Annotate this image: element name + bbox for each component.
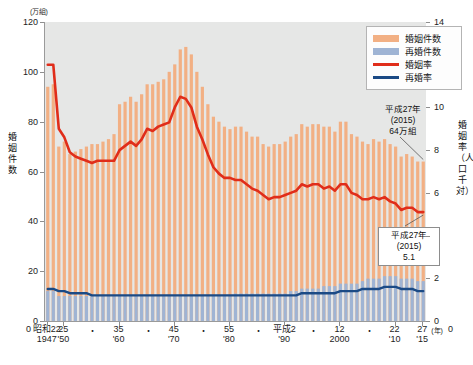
right-tickmark-10 [426,107,430,108]
legend-item-3[interactable]: 再婚率 [373,71,455,84]
x-axis-tick-2000: 122000 [317,324,361,344]
x-axis: 0 0 昭和22194725'50・35'60・45'70・55'80・平成2'… [0,324,473,365]
left-axis-tick-120: 120 [4,17,38,27]
left-tickmark-20 [40,271,44,272]
left-tickmark-0 [40,321,44,322]
x-axis-tick-1950: 25'50 [41,324,85,344]
legend-line-marriage-rate [373,63,399,66]
x-tickmark-2000 [339,322,340,326]
left-axis-unit: (万組) [30,6,47,16]
x-axis-tick-1970: 45'70 [152,324,196,344]
right-tickmark-0 [426,321,430,322]
right-axis-tick-8: 8 [434,145,456,155]
legend-line-remarriage-rate [373,76,399,79]
annotation-count-line-1: (2015) [375,115,431,126]
marriage-statistics-chart: (万組) 020406080100120 02468101214 婚姻件数 婚姻… [0,0,473,365]
right-tickmark-6 [426,193,430,194]
x-axis-unit: (年) [431,325,443,335]
x-tick-year-2000: 2000 [317,334,361,344]
left-tickmark-40 [40,221,44,222]
legend-swatch-remarriage-count [373,48,399,55]
annotation-count-line-0: 平成27年 [375,104,431,115]
right-tickmark-12 [426,65,430,66]
left-tickmark-60 [40,172,44,173]
legend-label-remarriage-rate: 再婚率 [405,71,432,84]
x-tickmark-2015 [422,322,423,326]
legend-item-1[interactable]: 再婚件数 [373,45,455,58]
right-tickmark-4 [426,236,430,237]
right-axis-tick-6: 6 [434,188,456,198]
annotation-marriage-rate-2015: 平成27年 (2015) 5.1 [378,227,440,266]
right-tickmark-14 [426,22,430,23]
legend-label-marriage-count: 婚姻件数 [405,32,441,45]
x-axis-zero-right: 0 [448,324,453,334]
legend-swatch-marriage-count [373,35,399,42]
x-tickmark-2010 [395,322,396,326]
legend-item-0[interactable]: 婚姻件数 [373,32,455,45]
left-axis-tick-80: 80 [4,117,38,127]
legend: 婚姻件数 再婚件数 婚姻率 再婚率 [366,26,462,90]
x-tickmark-1980 [229,322,230,326]
annotation-rate-line-2: 5.1 [382,252,436,263]
x-axis-tick-1960: 35'60 [97,324,141,344]
left-tickmark-80 [40,122,44,123]
legend-label-remarriage-count: 再婚件数 [405,45,441,58]
left-axis-tick-100: 100 [4,67,38,77]
x-tick-year-1970: '70 [152,334,196,344]
x-tickmark-1947 [47,322,48,326]
x-tickmark-1990 [284,322,285,326]
right-tickmark-8 [426,150,430,151]
x-tickmark-1950 [63,322,64,326]
x-tick-year-2015: '15 [400,334,444,344]
annotation-count-line-2: 64万組 [375,126,431,137]
left-axis-title: 婚姻件数 [6,132,18,176]
right-axis-title: 婚姻率（人口千対） [456,120,468,197]
annotation-marriage-count-2015: 平成27年 (2015) 64万組 [372,102,434,139]
right-tickmark-2 [426,278,430,279]
annotation-rate-line-1: (2015) [382,241,436,252]
x-tick-year-1950: '50 [41,334,85,344]
x-tickmark-1970 [174,322,175,326]
x-tickmark-1960 [119,322,120,326]
x-tick-year-1980: '80 [207,334,251,344]
x-axis-tick-1980: 55'80 [207,324,251,344]
left-axis-tick-20: 20 [4,266,38,276]
x-tick-year-1960: '60 [97,334,141,344]
x-axis-tick-1990: 平成2'90 [262,324,306,344]
left-tickmark-120 [40,22,44,23]
left-tickmark-100 [40,72,44,73]
legend-item-2[interactable]: 婚姻率 [373,58,455,71]
x-tick-year-1990: '90 [262,334,306,344]
left-axis-tick-40: 40 [4,216,38,226]
right-axis-tick-2: 2 [434,273,456,283]
right-axis-tick-10: 10 [434,102,456,112]
